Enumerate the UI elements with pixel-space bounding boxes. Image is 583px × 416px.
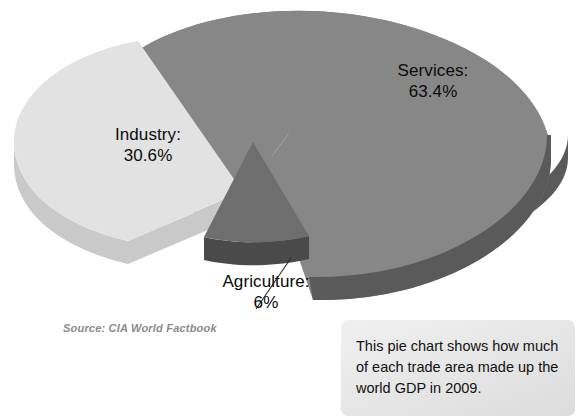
slice-label-services-value: 63.4%: [363, 81, 503, 102]
slice-label-industry-name: Industry:: [115, 125, 181, 144]
slice-label-services: Services: 63.4%: [363, 60, 503, 102]
slice-label-industry: Industry: 30.6%: [78, 124, 218, 166]
caption-text: This pie chart shows how much of each tr…: [356, 336, 561, 399]
slice-label-agriculture-name: Agriculture:: [222, 272, 309, 291]
slice-label-services-name: Services:: [398, 61, 469, 80]
caption-box: This pie chart shows how much of each tr…: [341, 320, 575, 416]
slice-label-agriculture-value: 6%: [186, 292, 346, 313]
slice-label-industry-value: 30.6%: [78, 145, 218, 166]
source-note: Source: CIA World Factbook: [63, 322, 217, 334]
slice-label-agriculture: Agriculture: 6%: [186, 271, 346, 313]
